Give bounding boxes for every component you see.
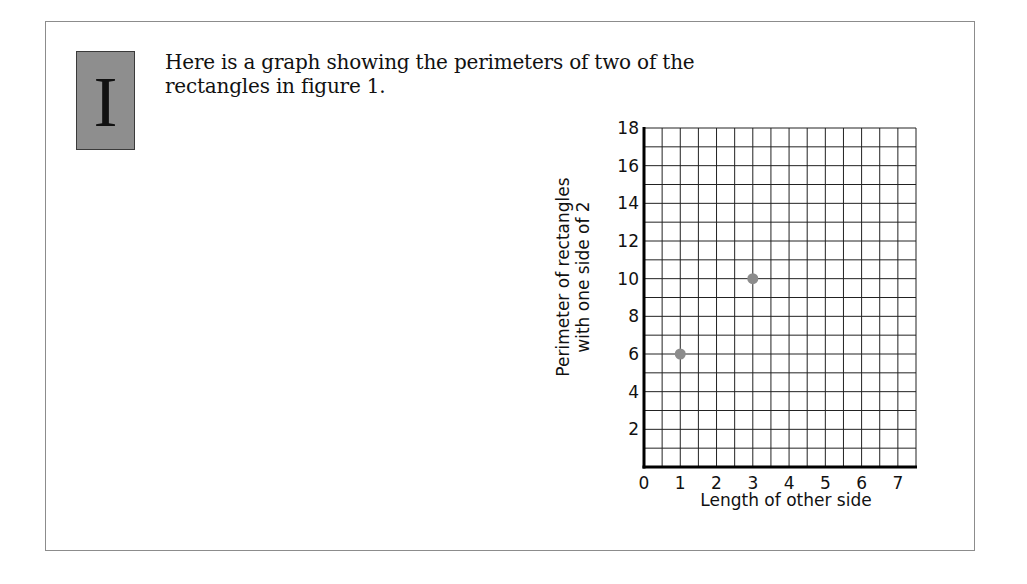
y-tick-label: 16 — [617, 156, 639, 176]
y-tick-label: 18 — [617, 118, 639, 138]
y-axis-label-line-2: with one side of 2 — [573, 201, 593, 352]
x-tick-label: 0 — [639, 473, 650, 493]
y-axis-label: Perimeter of rectangles with one side of… — [553, 177, 593, 376]
x-axis-label: Length of other side — [700, 490, 871, 510]
y-tick-label: 14 — [617, 193, 639, 213]
chart-grid — [644, 128, 916, 467]
x-tick-label: 1 — [675, 473, 686, 493]
y-tick-label: 8 — [628, 306, 639, 326]
y-tick-label: 6 — [628, 344, 639, 364]
y-tick-labels: 24681012141618 — [617, 118, 639, 439]
y-tick-label: 4 — [628, 382, 639, 402]
y-tick-label: 10 — [617, 269, 639, 289]
y-axis-label-line-1: Perimeter of rectangles — [553, 177, 573, 376]
perimeter-chart: 24681012141618 01234567 Length of other … — [0, 0, 1027, 584]
data-point — [675, 349, 686, 360]
x-tick-label: 7 — [892, 473, 903, 493]
y-tick-label: 2 — [628, 419, 639, 439]
y-tick-label: 12 — [617, 231, 639, 251]
data-point — [747, 273, 758, 284]
